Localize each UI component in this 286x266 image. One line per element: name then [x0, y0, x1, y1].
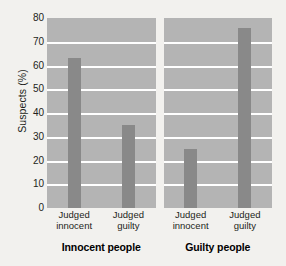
group-title-row: Innocent peopleGuilty people [47, 241, 272, 257]
plot-panel-2 [164, 18, 273, 208]
category-label-line: guilty [234, 220, 256, 231]
category-label-row: JudgedinnocentJudgedguiltyJudgedinnocent… [47, 210, 272, 238]
category-label-line: innocent [173, 220, 209, 231]
group-title-2: Guilty people [164, 241, 273, 257]
bar-chart: Suspects (%) 01020304050607080 Judgedinn… [0, 0, 286, 266]
bar [184, 149, 197, 208]
group-title-1: Innocent people [47, 241, 156, 257]
category-group-1: JudgedinnocentJudgedguilty [47, 210, 156, 238]
y-axis-tick-80: 80 [22, 13, 44, 23]
category-label: Judgedguilty [101, 210, 155, 238]
y-axis-tick-0: 0 [22, 203, 44, 213]
category-label: Judgedguilty [218, 210, 272, 238]
bar [238, 28, 251, 209]
category-label-line: Judged [59, 209, 90, 220]
plot-panel-1 [47, 18, 156, 208]
bars-container [47, 18, 156, 208]
category-group-2: JudgedinnocentJudgedguilty [164, 210, 273, 238]
category-label-line: Judged [113, 209, 144, 220]
category-label-line: Judged [229, 209, 260, 220]
y-axis-tick-40: 40 [22, 108, 44, 118]
y-axis-tick-60: 60 [22, 61, 44, 71]
bar [68, 58, 81, 208]
bars-container [164, 18, 273, 208]
y-axis-tick-10: 10 [22, 179, 44, 189]
bar [122, 125, 135, 208]
category-label: Judgedinnocent [47, 210, 101, 238]
y-axis-tick-50: 50 [22, 84, 44, 94]
y-axis-tick-70: 70 [22, 37, 44, 47]
y-axis-tick-labels: 01020304050607080 [22, 18, 44, 208]
category-label: Judgedinnocent [164, 210, 218, 238]
category-label-line: innocent [56, 220, 92, 231]
category-label-line: Judged [175, 209, 206, 220]
plot-panels [47, 18, 272, 208]
category-label-line: guilty [117, 220, 139, 231]
y-axis-tick-30: 30 [22, 132, 44, 142]
y-axis-tick-20: 20 [22, 156, 44, 166]
